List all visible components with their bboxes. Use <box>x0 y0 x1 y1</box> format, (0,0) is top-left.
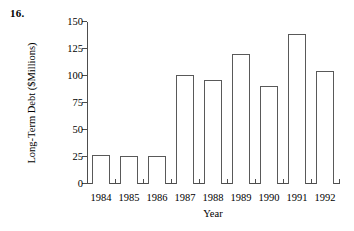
y-axis-title-container: Long-Term Debt ($Millions) <box>24 22 40 184</box>
x-tick-mark <box>311 179 312 184</box>
y-tick-group: 150 <box>87 21 88 22</box>
bar <box>148 156 165 184</box>
y-tick-group: 125 <box>87 48 88 49</box>
x-tick-label: 1987 <box>171 193 199 204</box>
y-tick-label: 75 <box>73 97 84 108</box>
y-axis-title: Long-Term Debt ($Millions) <box>27 42 38 163</box>
bar <box>176 75 193 184</box>
x-tick-mark <box>115 179 116 184</box>
y-tick-group: 50 <box>87 129 88 130</box>
y-tick-label: 150 <box>67 16 83 27</box>
x-tick-label: 1992 <box>311 193 339 204</box>
y-tick-label: 25 <box>73 151 84 162</box>
plot-area: 0255075100125150 19841985198619871988198… <box>87 22 339 184</box>
x-tick-label: 1990 <box>255 193 283 204</box>
x-tick-mark <box>199 179 200 184</box>
y-tick-group: 75 <box>87 102 88 103</box>
bar <box>260 86 277 184</box>
x-tick-mark <box>255 179 256 184</box>
bar <box>232 54 249 184</box>
x-tick-mark <box>143 179 144 184</box>
x-tick-label: 1984 <box>87 193 115 204</box>
y-tick-label: 125 <box>67 43 83 54</box>
y-tick-group: 100 <box>87 75 88 76</box>
figure-container: 16. Long-Term Debt ($Millions) 025507510… <box>0 0 354 231</box>
bar <box>316 71 333 184</box>
y-tick-group: 25 <box>87 156 88 157</box>
y-tick-label: 0 <box>78 178 83 189</box>
bar <box>288 34 305 184</box>
x-tick-mark <box>227 179 228 184</box>
problem-number-label: 16. <box>10 8 24 19</box>
y-tick-label: 50 <box>73 124 84 135</box>
bar <box>120 156 137 184</box>
x-tick-mark <box>339 179 340 184</box>
x-tick-mark <box>171 179 172 184</box>
x-tick-label: 1991 <box>283 193 311 204</box>
y-axis-line <box>87 22 88 184</box>
x-tick-mark <box>87 179 88 184</box>
x-tick-label: 1988 <box>199 193 227 204</box>
bar <box>204 80 221 184</box>
x-axis-title: Year <box>87 209 339 220</box>
y-tick-label: 100 <box>67 70 83 81</box>
x-tick-mark <box>283 179 284 184</box>
x-tick-label: 1986 <box>143 193 171 204</box>
x-tick-label: 1985 <box>115 193 143 204</box>
bar <box>92 155 109 184</box>
x-tick-label: 1989 <box>227 193 255 204</box>
